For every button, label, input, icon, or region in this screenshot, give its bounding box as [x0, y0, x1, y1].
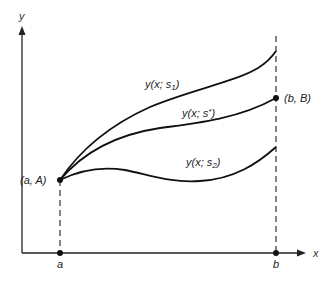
- curve-label-sstar: y(x; s*): [181, 107, 215, 119]
- start-point-label: (a, A): [20, 174, 47, 186]
- curve-label-s2: y(x; s2): [185, 156, 221, 170]
- x-axis-arrow-icon: [297, 250, 306, 257]
- point-b-B: [273, 95, 279, 101]
- curve-s1: [60, 51, 276, 180]
- shooting-method-diagram: y x (a, A) (b, B) a b y(x; s1) y(x; s*) …: [0, 0, 331, 286]
- y-axis-arrow-icon: [19, 26, 26, 35]
- y-axis-label: y: [18, 10, 26, 22]
- x-axis-label: x: [312, 247, 319, 259]
- tick-label-a: a: [57, 258, 63, 270]
- tick-point-b: [273, 250, 279, 256]
- curve-label-s1: y(x; s1): [144, 78, 180, 92]
- end-point-label: (b, B): [284, 92, 311, 104]
- curve-sstar: [60, 98, 276, 180]
- point-a-A: [57, 177, 63, 183]
- tick-label-b: b: [273, 258, 279, 270]
- tick-point-a: [57, 250, 63, 256]
